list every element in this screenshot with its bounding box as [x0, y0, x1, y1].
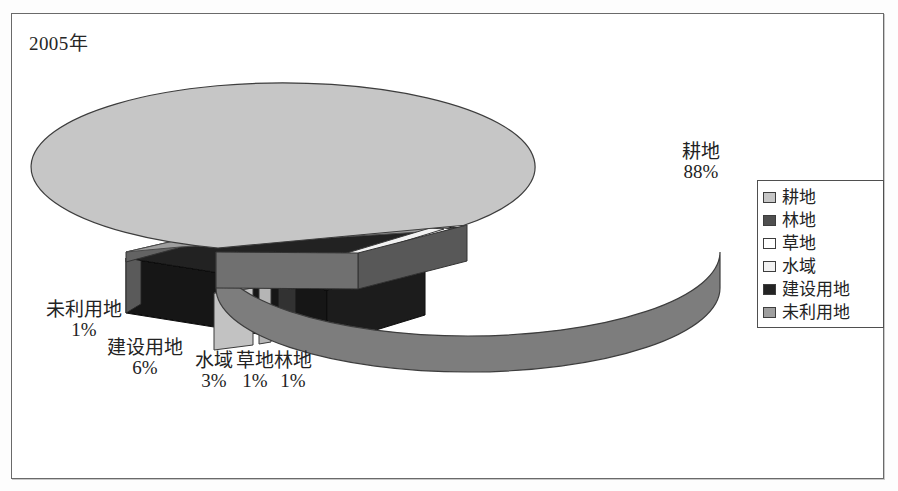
- data-label-lindi-name: 林地: [274, 350, 312, 371]
- legend-swatch-lindi: [763, 215, 776, 226]
- chart-page: 2005年: [0, 0, 898, 491]
- data-label-jiansheyongdi: 建设用地 6%: [93, 338, 197, 378]
- data-label-jiansheyongdi-percent: 6%: [93, 358, 197, 378]
- data-label-lindi-percent: 1%: [267, 371, 319, 391]
- legend-label-jiansheyongdi: 建设用地: [782, 281, 850, 298]
- legend-label-shuiyu: 水域: [782, 258, 816, 275]
- data-label-weiliyongdi: 未利用地 1%: [38, 300, 130, 340]
- legend-item-jiansheyongdi[interactable]: 建设用地: [763, 278, 883, 301]
- legend-swatch-gengdi: [763, 192, 776, 203]
- legend-swatch-caodi: [763, 238, 776, 249]
- legend-label-gengdi: 耕地: [782, 189, 816, 206]
- data-label-lindi: 林地 1%: [267, 351, 319, 391]
- legend-item-gengdi[interactable]: 耕地: [763, 186, 883, 209]
- data-label-gengdi-name: 耕地: [682, 141, 720, 162]
- legend-swatch-jiansheyongdi: [763, 284, 776, 295]
- legend-label-lindi: 林地: [782, 212, 816, 229]
- legend-item-lindi[interactable]: 林地: [763, 209, 883, 232]
- legend-label-weiliyongdi: 未利用地: [782, 304, 850, 321]
- data-label-weiliyongdi-name: 未利用地: [46, 299, 122, 320]
- legend-item-weiliyongdi[interactable]: 未利用地: [763, 301, 883, 324]
- data-label-jiansheyongdi-name: 建设用地: [107, 337, 183, 358]
- legend-swatch-weiliyongdi: [763, 307, 776, 318]
- data-label-shuiyu-name: 水域: [195, 350, 233, 371]
- legend-label-caodi: 草地: [782, 235, 816, 252]
- data-label-gengdi-percent: 88%: [638, 162, 764, 182]
- chart-legend: 耕地 林地 草地 水域 建设用地 未利用地: [757, 180, 884, 328]
- legend-item-caodi[interactable]: 草地: [763, 232, 883, 255]
- legend-swatch-shuiyu: [763, 261, 776, 272]
- data-label-gengdi: 耕地 88%: [638, 142, 764, 182]
- legend-item-shuiyu[interactable]: 水域: [763, 255, 883, 278]
